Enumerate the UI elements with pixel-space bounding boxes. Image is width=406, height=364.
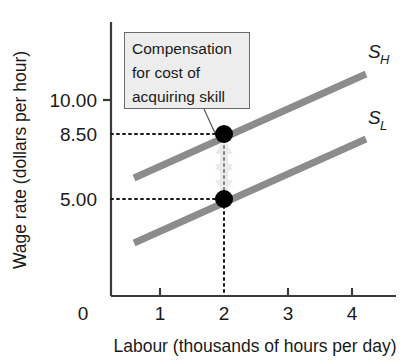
compensation-gap-arrow bbox=[215, 139, 233, 195]
x-tick-label-2: 2 bbox=[219, 303, 230, 324]
curve-label-sh-subscript: H bbox=[380, 52, 390, 67]
curve-label-sl-subscript: L bbox=[380, 118, 387, 133]
callout-line-3: acquiring skill bbox=[132, 85, 243, 109]
y-tick-label-10: 10.00 bbox=[49, 90, 97, 111]
y-tick-label-500: 5.00 bbox=[60, 189, 97, 210]
callout-line-2: for cost of bbox=[132, 61, 243, 85]
point-low-skill-equilibrium bbox=[215, 190, 233, 208]
x-tick-label-4: 4 bbox=[347, 303, 358, 324]
supply-curve-low-skill bbox=[134, 139, 366, 243]
callout-line-1: Compensation bbox=[132, 37, 243, 61]
origin-label: 0 bbox=[78, 303, 89, 324]
x-tick-label-3: 3 bbox=[283, 303, 294, 324]
wage-rate-skill-chart: 10.00 8.50 5.00 0 1 2 3 4 Labour (thousa… bbox=[0, 0, 406, 364]
point-high-skill-equilibrium bbox=[215, 125, 233, 143]
compensation-callout-box: Compensation for cost of acquiring skill bbox=[124, 32, 250, 109]
x-axis-title: Labour (thousands of hours per day) bbox=[113, 336, 396, 356]
x-tick-label-1: 1 bbox=[155, 303, 166, 324]
y-tick-label-850: 8.50 bbox=[60, 124, 97, 145]
y-axis-title: Wage rate (dollars per hour) bbox=[10, 51, 30, 269]
